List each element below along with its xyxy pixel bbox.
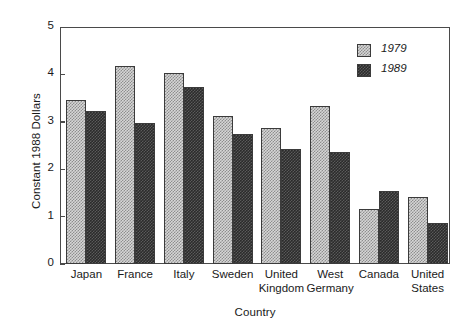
bar [261, 128, 281, 265]
legend-swatch [357, 44, 371, 57]
bar [379, 191, 399, 264]
bar-group [310, 27, 350, 264]
bar [184, 87, 204, 264]
bar-group [213, 27, 253, 264]
bar [408, 197, 428, 264]
bar [359, 209, 379, 264]
legend-item: 1979 [357, 42, 441, 62]
y-tick-label: 4 [30, 66, 54, 78]
legend-label: 1979 [381, 42, 407, 54]
y-tick-label: 0 [30, 256, 54, 268]
legend-label: 1989 [381, 62, 407, 74]
bar [310, 106, 330, 264]
bar-group [164, 27, 204, 264]
x-axis-title: Country [60, 306, 450, 318]
bar-group [115, 27, 155, 264]
bar [135, 123, 155, 264]
bar [86, 111, 106, 264]
y-tick-label: 1 [30, 209, 54, 221]
bar [66, 100, 86, 264]
legend-item: 1989 [357, 62, 441, 82]
bar [115, 66, 135, 264]
bar-chart: Constant 1988 Dollars 012345 JapanFrance… [0, 0, 474, 336]
bar [213, 116, 233, 264]
x-tick-label: UnitedStates [393, 268, 463, 295]
bar [164, 73, 184, 264]
y-tick-label: 5 [30, 19, 54, 31]
y-tick-label: 2 [30, 161, 54, 173]
chart-legend: 19791989 [357, 42, 441, 82]
bar [330, 152, 350, 264]
x-axis-tick-labels: JapanFranceItalySwedenUnitedKingdomWestG… [60, 268, 450, 304]
bar-group [66, 27, 106, 264]
y-tick-label: 3 [30, 114, 54, 126]
legend-swatch [357, 64, 371, 77]
bar [233, 134, 253, 264]
bar-group [261, 27, 301, 264]
bar [428, 223, 448, 264]
bar [281, 149, 301, 264]
